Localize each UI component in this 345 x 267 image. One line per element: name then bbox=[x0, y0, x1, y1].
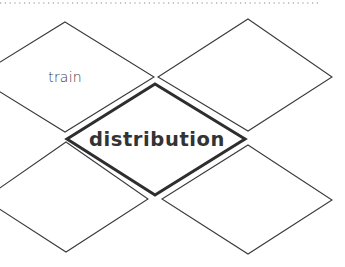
diamond-center-label: distribution bbox=[89, 128, 225, 151]
diagram-canvas: train distribution bbox=[0, 0, 345, 267]
diamond-top-left-label: train bbox=[48, 69, 82, 85]
